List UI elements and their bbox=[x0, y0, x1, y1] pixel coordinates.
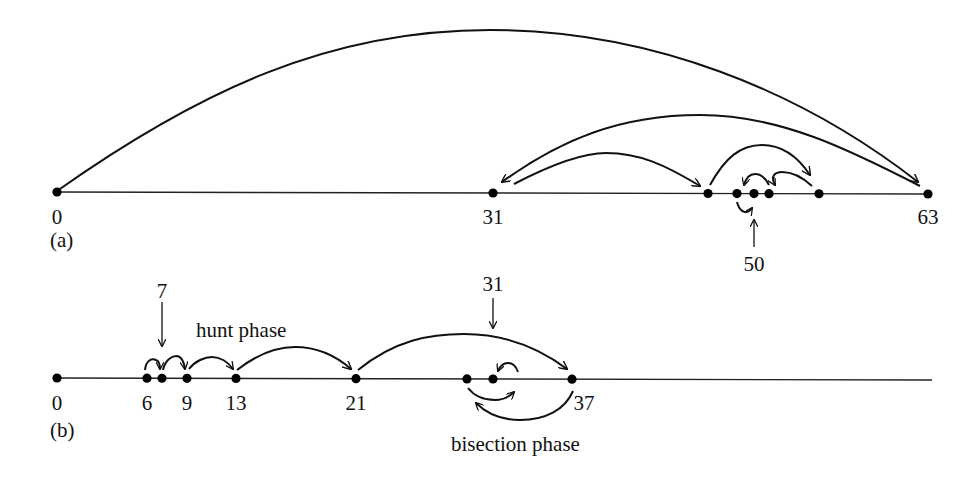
search-diagram: 0 31 63 50 (a) 7 31 hunt phase bisection… bbox=[0, 0, 980, 483]
tick-label-0: 0 bbox=[52, 391, 63, 415]
panel-a-points bbox=[52, 187, 932, 198]
jump-arc-55-to-51 bbox=[773, 172, 812, 186]
point-37 bbox=[567, 375, 576, 384]
pointer-label-50: 50 bbox=[744, 252, 765, 276]
point-0 bbox=[52, 187, 61, 196]
jump-arc-44-to-55 bbox=[710, 145, 810, 185]
pointer-label-31: 31 bbox=[483, 272, 504, 296]
jump-arc-37-to-29 bbox=[476, 391, 573, 420]
jump-arc-31-to-44 bbox=[514, 153, 700, 186]
tick-label-21: 21 bbox=[346, 391, 367, 415]
point-55 bbox=[814, 189, 823, 198]
bisection-phase-label: bisection phase bbox=[451, 432, 580, 456]
point-6 bbox=[142, 374, 151, 383]
panel-a: 0 31 63 50 (a) bbox=[50, 30, 939, 276]
jump-arc-33-to-31 bbox=[498, 363, 518, 372]
tick-label-31: 31 bbox=[483, 205, 504, 229]
hunt-phase-label: hunt phase bbox=[196, 318, 286, 342]
point-47 bbox=[732, 189, 741, 198]
jump-arc-9-to-13 bbox=[189, 357, 233, 369]
tick-label-0: 0 bbox=[52, 205, 63, 229]
pointer-label-7: 7 bbox=[157, 279, 168, 303]
tick-label-63: 63 bbox=[918, 205, 939, 229]
point-50 bbox=[749, 189, 758, 198]
panel-b: 7 31 hunt phase bisection phase 0 6 9 13… bbox=[50, 272, 932, 456]
point-44 bbox=[703, 189, 712, 198]
tick-label-9: 9 bbox=[182, 391, 193, 415]
jump-arc-47-to-50 bbox=[737, 202, 752, 212]
jump-arc-0-to-63 bbox=[57, 30, 918, 191]
tick-label-6: 6 bbox=[142, 391, 153, 415]
jump-arc-7-to-9 bbox=[163, 356, 185, 370]
point-31 bbox=[488, 374, 497, 383]
point-0 bbox=[52, 373, 61, 382]
point-29 bbox=[462, 374, 471, 383]
tick-label-13: 13 bbox=[226, 391, 247, 415]
point-31 bbox=[488, 188, 497, 197]
jump-arc-6-to-7 bbox=[145, 359, 160, 370]
jump-arc-21-to-37 bbox=[358, 334, 567, 370]
point-51 bbox=[764, 189, 773, 198]
point-21 bbox=[351, 374, 360, 383]
jump-arc-63-to-31 bbox=[502, 115, 920, 186]
tick-label-37: 37 bbox=[574, 391, 595, 415]
jump-arc-51-to-47 bbox=[744, 174, 769, 185]
point-7 bbox=[157, 374, 166, 383]
point-13 bbox=[231, 374, 240, 383]
panel-a-caption: (a) bbox=[50, 228, 73, 252]
point-9 bbox=[182, 374, 191, 383]
point-63 bbox=[923, 189, 932, 198]
jump-arc-29-to-33 bbox=[468, 388, 514, 400]
jump-arc-13-to-21 bbox=[237, 347, 351, 370]
panel-b-caption: (b) bbox=[50, 418, 75, 442]
